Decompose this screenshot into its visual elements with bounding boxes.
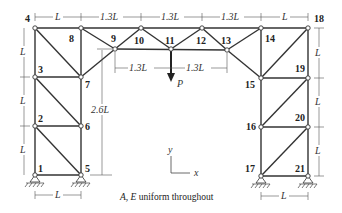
node-labels: 1 2 3 4 5 6 7 8 9 10 11 12 13 14 15 16 1… (25, 13, 324, 174)
left-dimensions: L L L (19, 28, 30, 175)
node-label-14: 14 (265, 33, 275, 44)
dim-top-2: 1.3L (100, 11, 119, 22)
y-axis-label: y (167, 144, 173, 155)
node-label-11: 11 (165, 35, 174, 46)
node-label-17: 17 (245, 163, 255, 174)
dim-right-1: L (314, 47, 321, 58)
node-label-19: 19 (295, 63, 305, 74)
truss-diagram: P (0, 0, 342, 213)
node-label-2: 2 (38, 113, 43, 124)
load-arrow: P (167, 49, 183, 89)
node-label-7: 7 (85, 79, 90, 90)
node-label-16: 16 (246, 121, 256, 132)
dim-right-2: L (314, 96, 321, 107)
node-label-4: 4 (25, 13, 30, 24)
node-label-13: 13 (221, 35, 231, 46)
node-label-12: 12 (196, 35, 206, 46)
dim-top-5: L (281, 11, 288, 22)
dim-mid-1: 1.3L (129, 62, 148, 73)
dim-left-3: L (19, 144, 26, 155)
node-label-21: 21 (295, 163, 305, 174)
truss-nodes (33, 26, 310, 178)
dim-left-2: L (19, 95, 26, 106)
node-label-1: 1 (38, 163, 43, 174)
top-dimensions: L 1.3L 1.3L 1.3L L (35, 11, 308, 22)
dim-height: 2.6L (91, 104, 110, 115)
dim-top-4: 1.3L (221, 11, 240, 22)
height-dimension: 2.6L (90, 49, 114, 175)
dim-top-3: 1.3L (161, 11, 180, 22)
dim-bottom-right: L (280, 190, 287, 201)
load-label: P (176, 78, 183, 89)
node-label-9: 9 (111, 33, 116, 44)
node-label-18: 18 (314, 13, 324, 24)
node-label-3: 3 (38, 64, 43, 75)
x-axis-label: x (193, 167, 199, 178)
dim-bottom-left: L (54, 189, 61, 200)
node-label-8: 8 (69, 33, 74, 44)
coordinate-axes: y x (167, 144, 199, 178)
node-label-15: 15 (245, 79, 255, 90)
node-label-5: 5 (85, 163, 90, 174)
node-label-20: 20 (295, 112, 305, 123)
right-dimensions: L L L (314, 28, 324, 176)
supports (25, 175, 317, 188)
dim-left-1: L (19, 46, 26, 57)
dim-mid-2: 1.3L (186, 62, 205, 73)
caption: A, E uniform throughout (119, 192, 214, 202)
node-label-6: 6 (85, 121, 90, 132)
dim-top-1: L (54, 11, 61, 22)
dim-right-3: L (314, 145, 321, 156)
node-label-10: 10 (134, 35, 144, 46)
